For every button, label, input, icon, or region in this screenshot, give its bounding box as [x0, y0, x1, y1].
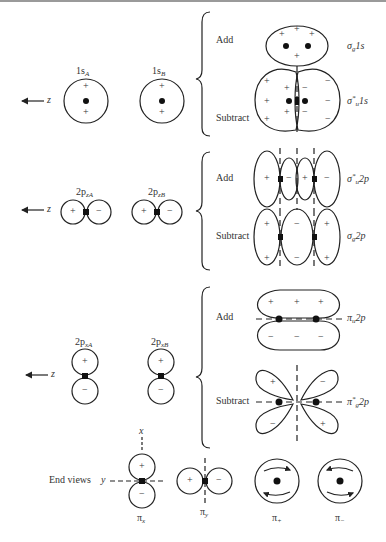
sign-plus: + [264, 113, 270, 124]
sign-plus: + [268, 296, 274, 307]
sign-minus: − [294, 218, 300, 229]
label-pi-y: πy [200, 506, 208, 519]
mo-label-sigma-u-star-1s: σ*u1s [347, 94, 368, 108]
sign-minus: − [82, 384, 88, 395]
sign-plus: + [294, 296, 300, 307]
sign-minus: − [294, 331, 300, 342]
sign-plus: + [264, 252, 270, 263]
sign-plus: + [82, 355, 88, 366]
sign-minus: − [325, 113, 331, 124]
sign-plus: + [324, 252, 330, 263]
mo-label-sigma-g-2p: σg2p [347, 230, 365, 243]
sign-plus: + [270, 376, 276, 387]
label-pi-plus: π+ [272, 512, 282, 525]
sign-plus: + [83, 106, 89, 117]
add-label: Add [216, 172, 233, 183]
sign-minus: − [96, 205, 102, 216]
end-views-label: End views [49, 474, 91, 485]
label-2pz-B: 2pzB [148, 186, 165, 199]
sign-plus: + [159, 80, 165, 91]
mo-label-sigma-u-star-2p: σ*u2p [347, 172, 369, 186]
sign-minus: − [216, 474, 222, 485]
label-1s-A: 1sA [76, 65, 89, 78]
sign-minus: − [302, 106, 308, 117]
z-axis-label: z [47, 94, 51, 105]
sign-minus: − [167, 205, 173, 216]
sign-plus: + [83, 80, 89, 91]
sign-minus: − [325, 75, 331, 86]
add-label: Add [216, 311, 233, 322]
label-pi-minus: π− [335, 512, 345, 525]
sign-plus: + [279, 28, 285, 39]
sign-minus: − [320, 376, 326, 387]
mo-label-pi-u-2p: πu2p [347, 312, 366, 325]
sign-minus: − [318, 331, 324, 342]
x-axis-label: x [139, 425, 143, 436]
sign-plus: + [318, 296, 324, 307]
sign-plus: + [264, 75, 270, 86]
sign-minus: − [324, 172, 330, 183]
mo-label-sigma-g-1s: σg1s [347, 40, 364, 53]
sign-minus: − [270, 418, 276, 429]
sign-plus: + [284, 106, 290, 117]
sign-plus: + [264, 95, 270, 106]
sign-plus: + [294, 23, 300, 34]
sign-plus: + [264, 172, 270, 183]
sign-plus: + [158, 355, 164, 366]
sign-minus: − [302, 82, 308, 93]
sign-plus: + [70, 205, 76, 216]
subtract-label: Subtract [216, 230, 249, 241]
sign-plus: + [139, 460, 145, 471]
sign-minus: − [286, 172, 292, 183]
sign-minus: − [268, 331, 274, 342]
subtract-label: Subtract [216, 112, 249, 123]
sign-plus: + [320, 418, 326, 429]
add-label: Add [216, 34, 233, 45]
subtract-label: Subtract [216, 395, 249, 406]
mo-label-pi-g-star-2p: π*g2p [347, 395, 369, 409]
z-axis-label: z [51, 368, 55, 379]
sign-minus: − [139, 488, 145, 499]
label-2px-B: 2pxB [151, 336, 168, 349]
sign-plus: + [159, 106, 165, 117]
sign-plus: + [294, 50, 300, 61]
label-2pz-A: 2pzA [76, 186, 93, 199]
label-2px-A: 2pxA [75, 336, 92, 349]
y-axis-label: y [101, 474, 105, 485]
sign-minus: − [158, 384, 164, 395]
z-axis-label: z [47, 203, 51, 214]
sign-plus: + [284, 82, 290, 93]
sign-plus: + [302, 172, 308, 183]
sign-plus: + [309, 28, 315, 39]
sign-plus: + [264, 218, 270, 229]
label-pi-x: πx [137, 512, 145, 525]
sign-minus: − [294, 252, 300, 263]
sign-plus: + [141, 205, 147, 216]
sign-plus: + [187, 474, 193, 485]
sign-minus: − [325, 95, 331, 106]
label-1s-B: 1sB [152, 65, 165, 78]
sign-plus: + [324, 218, 330, 229]
